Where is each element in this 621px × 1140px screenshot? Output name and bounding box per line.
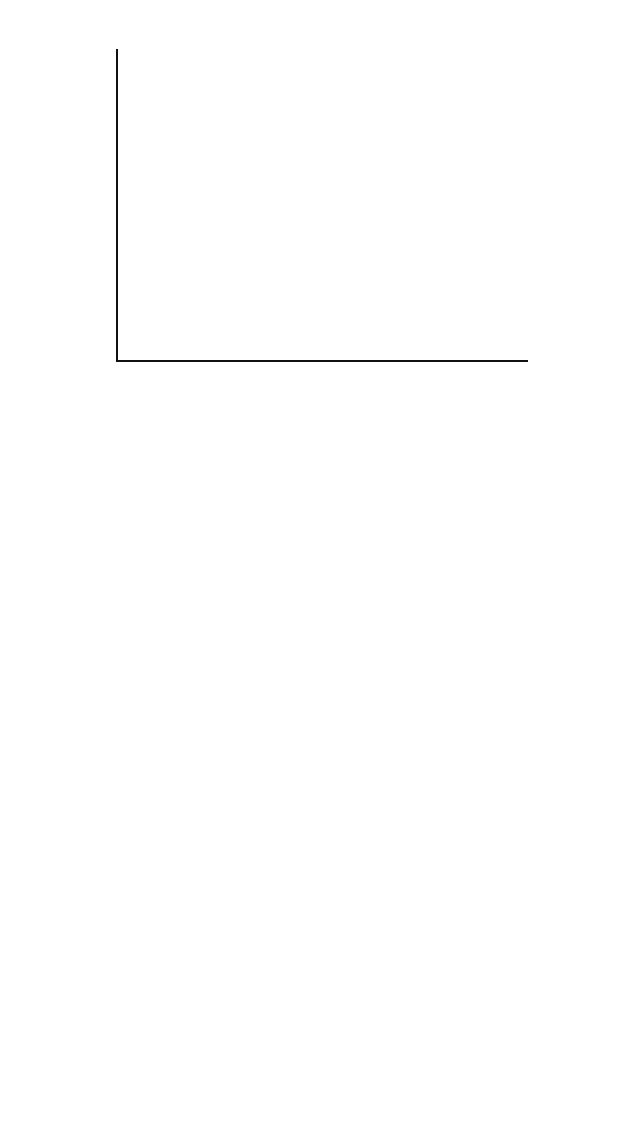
panel-a xyxy=(0,0,528,361)
figure-canvas xyxy=(0,0,621,1140)
